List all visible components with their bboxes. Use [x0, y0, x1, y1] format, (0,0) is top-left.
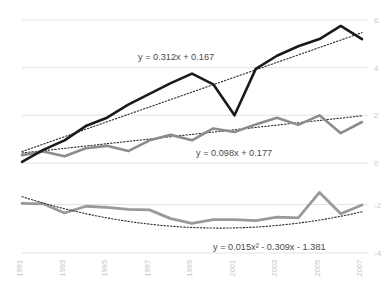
x-tick-label: 1993 [58, 260, 67, 276]
y-tick-label: 2 [374, 111, 379, 120]
x-tick-label: 1997 [143, 260, 152, 276]
x-tick-label: 1995 [100, 260, 109, 276]
x-tick-label: 2005 [313, 260, 322, 276]
upper-series-group [22, 26, 362, 162]
y-tick-label: 0 [374, 159, 379, 168]
y-tick-label: 4 [374, 64, 379, 73]
x-tick-label: 2003 [270, 260, 279, 276]
equation-label-gray: y = 0.098x + 0.177 [196, 148, 272, 158]
chart-container: 0246 -2-4 199119931995199719992001200320… [0, 0, 390, 294]
equation-label-dark: y = 0.312x + 0.167 [138, 52, 214, 62]
x-tick-label: 1991 [15, 260, 24, 276]
x-axis-labels: 199119931995199719992001200320052007 [15, 260, 364, 276]
upper-y-axis-labels: 0246 [374, 16, 379, 168]
y-tick-label: -4 [374, 249, 382, 258]
x-tick-label: 2001 [228, 260, 237, 276]
lower-series-group [22, 192, 362, 228]
y-tick-label: 6 [374, 16, 379, 25]
x-tick-label: 2007 [355, 260, 364, 276]
x-tick-label: 1999 [185, 260, 194, 276]
combo-line-chart: 0246 -2-4 199119931995199719992001200320… [0, 0, 390, 294]
equation-label-poly: y = 0.015x² - 0.309x - 1.381 [213, 242, 326, 252]
residual-series-line [22, 192, 362, 223]
lower-y-axis-labels: -2-4 [374, 201, 382, 258]
y-tick-label: -2 [374, 201, 382, 210]
